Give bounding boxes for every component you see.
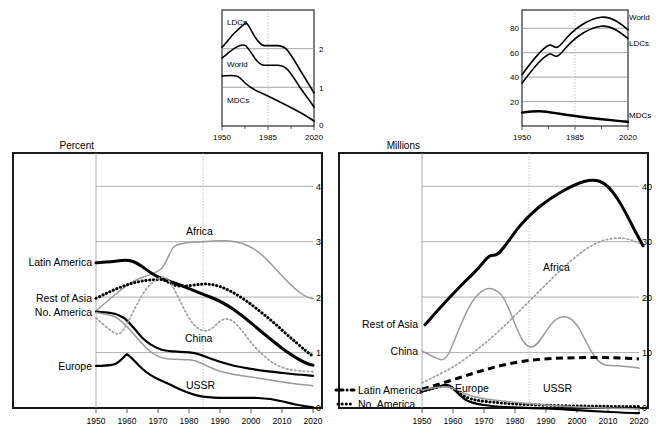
main-left-label-latin-america: Latin America xyxy=(28,256,92,268)
main-left-panel: 4 3 2 1 0 1950 1960 1970 1980 1990 2000 … xyxy=(0,143,330,432)
main-left-ylabel-2: 2 xyxy=(316,293,321,303)
main-right-xlabel-1990: 1990 xyxy=(537,416,556,426)
main-left-xlabel-1950: 1950 xyxy=(87,416,106,426)
main-right-label-ussr: USSR xyxy=(543,382,573,394)
inset-right-ylabel-80: 80 xyxy=(510,24,519,33)
inset-right-xlabel-2020: 2020 xyxy=(619,133,637,142)
main-right-axis-title: Millions xyxy=(387,140,420,151)
inset-left-label-world: World xyxy=(227,60,248,69)
main-right-ylabel-40: 40 xyxy=(642,182,652,192)
main-left-xlabel-2010: 2010 xyxy=(273,416,292,426)
main-left-label-africa: Africa xyxy=(186,225,213,237)
main-right-svg: 40 30 20 10 0 1950 1960 1970 1980 1990 2… xyxy=(330,143,656,432)
inset-left-svg: 2 1 0 1950 1985 2020 LDCs World MDCs xyxy=(206,4,334,142)
inset-right-ylabel-60: 60 xyxy=(510,49,519,58)
main-left-series-rest-of-asia xyxy=(96,280,313,356)
legend-label-latin-america: Latin America xyxy=(358,384,422,396)
main-left-series-latin-america xyxy=(96,260,313,365)
legend-label-no-america: No. America xyxy=(358,398,415,410)
inset-left-panel: 2 1 0 1950 1985 2020 LDCs World MDCs xyxy=(206,4,334,142)
inset-right-xlabel-1950: 1950 xyxy=(513,133,531,142)
inset-right-label-world: World xyxy=(629,13,650,22)
main-right-label-china: China xyxy=(391,345,419,357)
main-left-xlabel-1970: 1970 xyxy=(149,416,168,426)
main-right-legend: Latin America No. America xyxy=(336,384,422,410)
inset-right-svg: 80 60 40 20 1950 1985 2020 World LDCs MD… xyxy=(500,4,650,142)
inset-right-ylabel-20: 20 xyxy=(510,98,519,107)
main-left-axis-title: Percent xyxy=(60,140,95,151)
main-left-xlabel-2020: 2020 xyxy=(304,416,323,426)
main-left-label-ussr: USSR xyxy=(186,379,216,391)
main-left-label-europe: Europe xyxy=(58,360,92,372)
inset-left-xlabel-1950: 1950 xyxy=(213,133,231,142)
main-right-ylabel-10: 10 xyxy=(642,348,652,358)
inset-left-xlabel-1985: 1985 xyxy=(259,133,277,142)
main-right-xlabel-1960: 1960 xyxy=(444,416,463,426)
main-left-series-china xyxy=(96,277,313,372)
main-left-series-africa xyxy=(96,241,313,311)
main-left-label-rest-of-asia: Rest of Asia xyxy=(36,292,92,304)
main-right-xlabel-1950: 1950 xyxy=(413,416,432,426)
inset-right-xlabel-1985: 1985 xyxy=(566,133,584,142)
inset-left-ylabel-0: 0 xyxy=(319,121,324,130)
main-right-xlabel-2020: 2020 xyxy=(630,416,649,426)
main-left-xlabel-2000: 2000 xyxy=(242,416,261,426)
main-left-xlabel-1960: 1960 xyxy=(118,416,137,426)
main-right-label-europe: Europe xyxy=(455,382,489,394)
main-left-ylabel-1: 1 xyxy=(316,348,321,358)
main-right-xlabel-2010: 2010 xyxy=(599,416,618,426)
main-right-series-africa xyxy=(422,238,639,383)
main-right-xlabel-1980: 1980 xyxy=(506,416,525,426)
main-right-ylabel-20: 20 xyxy=(642,293,652,303)
main-left-xlabel-1980: 1980 xyxy=(180,416,199,426)
main-right-xlabel-1970: 1970 xyxy=(475,416,494,426)
inset-left-ylabel-1: 1 xyxy=(319,84,324,93)
inset-left-ylabel-2: 2 xyxy=(319,45,324,54)
inset-left-xlabel-2020: 2020 xyxy=(305,133,323,142)
main-right-ylabel-0: 0 xyxy=(642,403,647,413)
inset-right-label-ldcs: LDCs xyxy=(629,39,649,48)
main-right-panel: 40 30 20 10 0 1950 1960 1970 1980 1990 2… xyxy=(330,143,656,432)
main-right-label-rest-of-asia: Rest of Asia xyxy=(362,318,418,330)
inset-right-label-mdcs: MDCs xyxy=(629,111,651,120)
inset-right-ylabel-40: 40 xyxy=(510,73,519,82)
inset-left-label-ldcs: LDCs xyxy=(227,18,247,27)
main-right-label-africa: Africa xyxy=(543,261,570,273)
main-right-frame xyxy=(339,153,648,408)
main-left-ylabel-3: 3 xyxy=(316,237,321,247)
main-right-ylabel-30: 30 xyxy=(642,237,652,247)
main-left-label-china: China xyxy=(185,332,213,344)
main-left-ylabel-0: 0 xyxy=(316,403,321,413)
main-left-label-no-america: No. America xyxy=(35,306,92,318)
main-left-ylabel-4: 4 xyxy=(316,182,321,192)
inset-right-panel: 80 60 40 20 1950 1985 2020 World LDCs MD… xyxy=(500,4,650,142)
inset-left-label-mdcs: MDCs xyxy=(227,96,249,105)
main-left-xlabel-1990: 1990 xyxy=(211,416,230,426)
main-right-xlabel-2000: 2000 xyxy=(568,416,587,426)
main-left-svg: 4 3 2 1 0 1950 1960 1970 1980 1990 2000 … xyxy=(0,143,330,432)
main-right-series-rest-of-asia xyxy=(425,180,643,325)
